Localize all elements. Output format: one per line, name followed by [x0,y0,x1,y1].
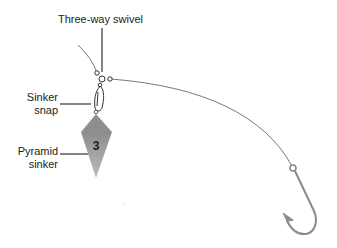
pyramid-sinker: 3 [81,110,112,178]
three-way-swivel [95,71,112,87]
rig-illustration: 3 [0,0,337,248]
fishing-rig-diagram: 3 Three-way swivel Sinker snap Pyramid s… [0,0,337,248]
sinker-weight-number: 3 [93,139,100,153]
sinker-snap [95,86,104,111]
label-pyramid-sinker: Pyramid sinker [10,145,58,171]
label-pyramid-sinker-line1: Pyramid [10,145,58,158]
main-line [78,45,97,73]
label-sinker-snap-line2: snap [20,104,58,117]
fish-hook [283,165,316,234]
label-three-way-swivel: Three-way swivel [58,13,143,26]
leader-line-to-hook [111,79,292,166]
label-pyramid-sinker-line2: sinker [10,158,58,171]
print-speck [124,203,125,204]
label-sinker-snap-line1: Sinker [20,91,58,104]
label-sinker-snap: Sinker snap [20,91,58,117]
